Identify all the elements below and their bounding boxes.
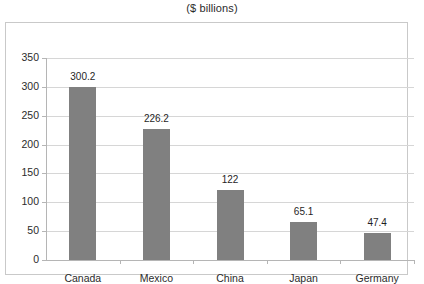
- x-axis-category-label: Canada: [43, 273, 123, 284]
- bar[interactable]: [364, 233, 391, 260]
- x-axis-tick: [414, 260, 415, 264]
- chart-plot-frame: 050100150200250300350 300.2226.212265.14…: [5, 22, 408, 275]
- bar[interactable]: [290, 222, 317, 260]
- bar-value-label: 300.2: [53, 72, 113, 82]
- y-axis-tick-label: 300: [6, 81, 39, 92]
- y-axis-tick-label: 250: [6, 110, 39, 121]
- bar-value-label: 65.1: [274, 207, 334, 217]
- y-axis-tick-label: 0: [6, 254, 39, 265]
- bar-value-label: 122: [200, 175, 260, 185]
- x-axis-category-label: China: [190, 273, 270, 284]
- x-axis-tick: [120, 260, 121, 264]
- y-axis-tick-label: 200: [6, 139, 39, 150]
- chart-title: ($ billions): [0, 2, 424, 14]
- x-axis-tick: [193, 260, 194, 264]
- bars-group: [46, 58, 414, 260]
- x-axis-category-label: Japan: [264, 273, 344, 284]
- x-axis-tick: [267, 260, 268, 264]
- bar[interactable]: [69, 87, 96, 260]
- gridline: [46, 260, 414, 261]
- y-axis-tick-label: 100: [6, 196, 39, 207]
- bar[interactable]: [217, 190, 244, 260]
- x-axis-category-label: Germany: [337, 273, 417, 284]
- x-axis-tick: [340, 260, 341, 264]
- chart-inner: 050100150200250300350 300.2226.212265.14…: [6, 23, 407, 274]
- bar-value-label: 226.2: [126, 114, 186, 124]
- bar-chart: ($ billions) 050100150200250300350 300.2…: [0, 0, 424, 284]
- x-axis-category-label: Mexico: [116, 273, 196, 284]
- bar-value-label: 47.4: [347, 218, 407, 228]
- bar[interactable]: [143, 129, 170, 260]
- y-axis-tick-label: 50: [6, 225, 39, 236]
- y-axis-tick-label: 150: [6, 167, 39, 178]
- y-axis-tick-label: 350: [6, 52, 39, 63]
